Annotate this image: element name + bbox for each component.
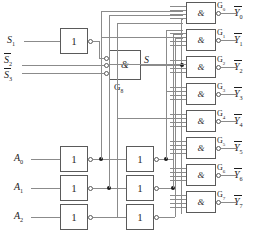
bus-tap-a2n-g4: [117, 118, 170, 119]
input-label-s2-bar-text: S2: [4, 53, 12, 67]
nand-gate-g5-label-text: G5: [217, 136, 225, 145]
inverter-s1-symbol: 1: [71, 36, 77, 47]
bus-top-run-a1t: [173, 34, 183, 35]
wire-g0-in3: [170, 14, 186, 15]
output-label-y3: Y3: [234, 87, 243, 101]
wire-g4-in3: [170, 122, 186, 123]
bus-top-run-a1n: [109, 15, 183, 16]
wire-g3-in4: [170, 99, 186, 100]
nand-gate-g4: &: [186, 110, 216, 132]
nand-gate-g6-symbol: &: [197, 171, 204, 180]
nand-gate-g6-label-text: G6: [217, 163, 225, 172]
inverter-a2-col2: 1: [126, 204, 154, 230]
nand-gate-g7: &: [186, 191, 216, 213]
nand-gate-g4-label: G4: [217, 109, 225, 120]
nand-gate-g5-label: G5: [217, 136, 225, 147]
wire-g2-in1: [170, 60, 186, 61]
wire-g5-in4: [170, 153, 186, 154]
wire-g1-in4: [170, 45, 186, 46]
wire-g6-in3: [170, 176, 186, 177]
nand-gate-g2-label: G2: [217, 55, 225, 66]
output-label-y6-text: Y6: [234, 168, 243, 182]
wire-g3-in2: [170, 91, 186, 92]
inverter-s1: 1: [60, 28, 88, 54]
nand-gate-g7-label: G7: [217, 190, 225, 201]
wire-g2-in4: [170, 72, 186, 73]
nand-gate-g5-symbol: &: [197, 144, 204, 153]
output-label-y2: Y2: [234, 60, 243, 74]
input-label-a2: A2: [14, 210, 23, 223]
wire-a0-true-rail: [166, 30, 167, 159]
nand-gate-g2-label-text: G2: [217, 55, 225, 64]
bus-top-run-s: [181, 19, 183, 20]
wire-g6-in4: [170, 180, 186, 181]
output-label-y1: Y1: [234, 33, 243, 47]
inverter-a0-col1-symbol: 1: [71, 154, 77, 165]
output-label-y3-text: Y3: [234, 87, 243, 101]
output-label-y2-text: Y2: [234, 60, 243, 74]
nand-gate-g3-symbol: &: [197, 90, 204, 99]
wire-g3-in1: [170, 87, 186, 88]
and-gate-g8-label: G8: [114, 82, 123, 94]
and-gate-g8: &: [109, 50, 141, 80]
input-label-s1-text: S1: [7, 34, 15, 45]
wire-g0-in1: [170, 6, 186, 7]
input-label-a0-text: A0: [14, 152, 23, 163]
wire-a2-nbar-rail: [117, 23, 118, 217]
wire-s2-to-g8: [22, 65, 106, 66]
inverter-a1-col2-symbol: 1: [137, 183, 143, 194]
wire-a0-nbar-rail: [101, 11, 102, 159]
wire-a2-nbar-tap: [117, 217, 126, 218]
input-label-a2-text: A2: [14, 210, 23, 221]
nand-gate-g4-symbol: &: [197, 117, 204, 126]
wire-g7-in2: [170, 199, 186, 200]
input-label-s1: S1: [7, 34, 15, 47]
wire-g7-in1: [170, 195, 186, 196]
bus-top-run-a2n: [117, 23, 183, 24]
inverter-a1-col2: 1: [126, 175, 154, 201]
nand-gate-g1: &: [186, 29, 216, 51]
wire-a1-true-rail: [173, 34, 174, 188]
and-gate-g8-label-text: G8: [114, 82, 123, 92]
nand-gate-g1-symbol: &: [197, 36, 204, 45]
input-label-s3-bar: S3: [4, 68, 12, 82]
nand-gate-g0-symbol: &: [197, 9, 204, 18]
output-label-y7: Y7: [234, 195, 243, 209]
input-label-s2-bar: S2: [4, 53, 12, 67]
nand-gate-g1-label: G1: [217, 28, 225, 39]
bus-top-run-a2t: [175, 38, 183, 39]
inverter-a2-col1-symbol: 1: [71, 212, 77, 223]
nand-gate-g0-label-text: G0: [217, 1, 225, 10]
wire-g4-in1: [170, 114, 186, 115]
output-label-y0: Y0: [234, 6, 243, 20]
wire-a0-in: [31, 159, 60, 160]
wire-g1-in1: [170, 33, 186, 34]
wire-g7-in4: [170, 207, 186, 208]
inverter-a1-col1: 1: [60, 175, 88, 201]
inverter-a2-col2-symbol: 1: [137, 212, 143, 223]
wire-g7-in3: [170, 203, 186, 204]
wire-g5-in3: [170, 149, 186, 150]
nand-gate-g3-label: G3: [217, 82, 225, 93]
wire-g5-in1: [170, 141, 186, 142]
output-label-y4: Y4: [234, 114, 243, 128]
wire-g0-in4: [170, 18, 186, 19]
wire-s1-to-inverter: [24, 41, 60, 42]
wire-a2-in: [31, 217, 60, 218]
wire-a2-true-run: [159, 217, 175, 218]
nand-gate-g4-label-text: G4: [217, 109, 225, 118]
wire-g4-in4: [170, 126, 186, 127]
input-label-s3-bar-text: S3: [4, 68, 12, 82]
input-label-a0: A0: [14, 152, 23, 165]
nand-gate-g0: &: [186, 2, 216, 24]
nand-gate-g2: &: [186, 56, 216, 78]
wire-g1-in3: [170, 41, 186, 42]
nand-gate-g5: &: [186, 137, 216, 159]
inverter-a2-col1: 1: [60, 204, 88, 230]
wire-inv-s1-drop: [99, 41, 100, 58]
nand-gate-g7-label-text: G7: [217, 190, 225, 199]
wire-g6-in1: [170, 168, 186, 169]
wire-g4-in2: [170, 118, 186, 119]
wire-a1-nbar-rail: [109, 15, 110, 188]
bus-top-run-a0t: [166, 30, 183, 31]
